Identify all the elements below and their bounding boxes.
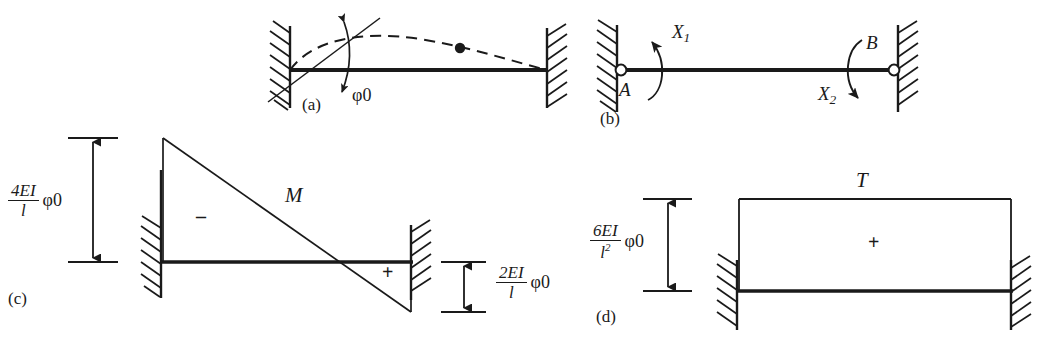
structural-figure: (a) φ0 (b) A B X1 X2 (c) 4EI l φ0 2EI l … — [0, 0, 1054, 355]
ordinate-left-c-factor: φ0 — [43, 190, 62, 211]
angle-arc-phi0 — [342, 22, 350, 92]
support-left-c — [141, 170, 161, 298]
support-right-d — [1011, 256, 1031, 330]
x1-subscript: 1 — [684, 30, 691, 45]
figure-canvas — [0, 0, 1054, 355]
x2-subscript: 2 — [830, 92, 837, 107]
label-phi0-a: φ0 — [348, 86, 371, 104]
dimension-left-d — [643, 199, 692, 291]
panel-tag-c: (c) — [8, 290, 27, 307]
x2-symbol: X — [818, 83, 830, 104]
pin-joint-a — [616, 65, 627, 76]
support-right-c — [411, 220, 431, 300]
panel-tag-d: (d) — [596, 308, 616, 325]
ordinate-label-left-c: 4EI l φ0 — [8, 182, 62, 219]
sign-negative-c: – — [196, 206, 206, 226]
label-x1: X1 — [672, 22, 690, 45]
support-left-b — [597, 20, 617, 112]
support-left-d — [717, 254, 737, 330]
pin-joint-b — [889, 65, 900, 76]
ordinate-right-c-denominator: l — [496, 284, 527, 301]
ordinate-right-c-factor: φ0 — [531, 272, 550, 293]
ordinate-label-right-c: 2EI l φ0 — [496, 264, 550, 301]
ordinate-d-numerator: 6EI — [590, 222, 621, 239]
x1-symbol: X — [672, 21, 684, 42]
panel-tag-b: (b) — [600, 110, 620, 127]
dimension-left-c — [68, 138, 118, 262]
ordinate-label-d: 6EI l2 φ0 — [590, 222, 644, 261]
node-label-b: B — [866, 33, 878, 52]
sign-positive-d: + — [868, 232, 879, 252]
support-right-b — [898, 21, 918, 112]
ordinate-right-c-numerator: 2EI — [496, 264, 527, 281]
ordinate-left-c-denominator: l — [8, 202, 39, 219]
node-label-a: A — [619, 80, 631, 99]
phi0-symbol: φ0 — [352, 85, 371, 105]
support-left-a — [270, 21, 290, 110]
shear-diagram-symbol: T — [856, 170, 868, 191]
inflection-point-marker-a — [455, 43, 465, 53]
support-right-a — [547, 24, 567, 108]
deflected-curve-a — [290, 36, 547, 70]
panel-d-graphics — [643, 199, 1031, 330]
ordinate-d-factor: φ0 — [625, 231, 644, 252]
panel-c-graphics — [68, 138, 486, 312]
sign-positive-c: + — [382, 262, 393, 282]
panel-tag-a: (a) — [302, 96, 321, 113]
moment-diagram-symbol: M — [285, 185, 303, 206]
ordinate-d-denominator-wrap: l2 — [590, 242, 621, 261]
ordinate-left-c-numerator: 4EI — [8, 182, 39, 199]
dimension-right-c — [441, 262, 486, 312]
ordinate-d-denominator-exponent: 2 — [605, 241, 611, 253]
label-x2: X2 — [818, 84, 836, 107]
